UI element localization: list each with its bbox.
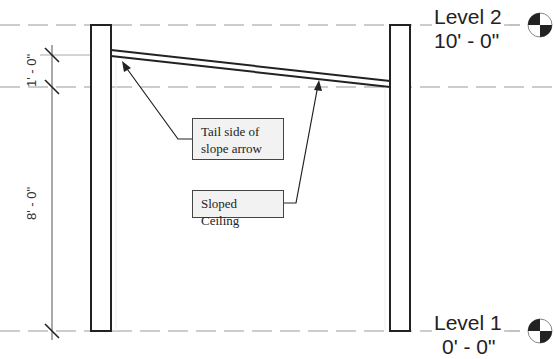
level-1-elevation: 0' - 0" [440, 336, 497, 357]
tail-leader-line [125, 66, 192, 139]
level-2-name: Level 2 [432, 6, 504, 27]
sloped-ceiling-top [111, 50, 390, 81]
callout-tail-side: Tail side of slope arrow [192, 118, 284, 160]
dimension-label-8ft: 8' - 0" [25, 187, 38, 220]
left-wall [91, 25, 111, 331]
arrowhead-icon [122, 61, 131, 72]
level-1-head-icon [528, 319, 552, 343]
level-2-elevation: 10' - 0" [432, 30, 501, 51]
right-wall [390, 25, 410, 331]
sloped-ceiling-bottom [111, 56, 390, 87]
arrowhead-icon [314, 80, 322, 91]
level-2-head-icon [528, 13, 552, 37]
dimension-label-1ft: 1' - 0" [25, 54, 38, 87]
section-diagram [0, 0, 554, 359]
level-1-name: Level 1 [432, 312, 504, 333]
callout-sloped-ceiling: Sloped Ceiling [192, 190, 284, 218]
sloped-leader-line [284, 85, 318, 203]
